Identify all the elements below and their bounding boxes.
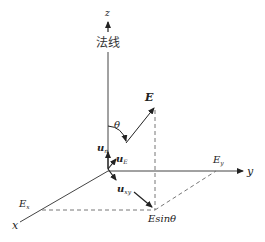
dashed-Ey-line — [155, 171, 216, 210]
y-axis-label: y — [246, 165, 254, 178]
x-axis — [20, 171, 108, 222]
u-E-arrow — [108, 159, 116, 169]
theta-label: θ — [114, 119, 120, 130]
u-xy-label: uxy — [117, 183, 132, 196]
z-axis-label: z — [104, 8, 110, 18]
Ey-label: Ey — [212, 154, 224, 167]
Esintheta-label: Esinθ — [147, 213, 176, 224]
vector-E-label: E — [144, 91, 154, 104]
u-xy-long-arrow — [134, 192, 152, 207]
vector-E — [126, 108, 154, 143]
field-diagram: z 法线 y x E θ un uE uxy Ex Ey Esinθ — [0, 0, 265, 242]
x-axis-label: x — [12, 219, 19, 232]
normal-line-label: 法线 — [96, 36, 120, 50]
u-E-label: uE — [116, 153, 128, 165]
Ex-label: Ex — [18, 198, 30, 210]
u-n-label: un — [97, 142, 108, 154]
